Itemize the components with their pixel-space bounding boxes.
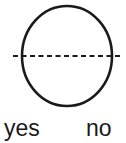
label-yes: yes xyxy=(4,114,40,143)
figure-root: yes no xyxy=(0,0,126,143)
label-row: yes no xyxy=(0,114,126,143)
circle-with-axis-svg xyxy=(0,0,126,114)
shape-area xyxy=(0,0,126,114)
label-no: no xyxy=(86,114,112,143)
